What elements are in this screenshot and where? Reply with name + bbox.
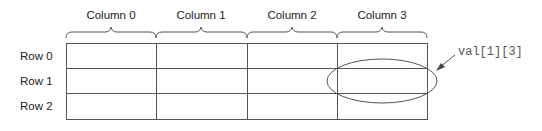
highlight-ellipse bbox=[327, 59, 437, 103]
column-header-3: Column 3 bbox=[357, 9, 406, 21]
element-label: val[1][3] bbox=[458, 45, 523, 59]
pointer-arrow bbox=[436, 55, 455, 71]
column-header-0: Column 0 bbox=[86, 9, 135, 21]
column-header-2: Column 2 bbox=[267, 9, 316, 21]
row-label-1: Row 1 bbox=[20, 75, 53, 87]
brace-column-0 bbox=[66, 27, 156, 38]
array-grid bbox=[66, 43, 428, 120]
brace-column-2 bbox=[247, 27, 337, 38]
brace-column-3 bbox=[337, 27, 427, 38]
array-diagram: Column 0 Column 1 Column 2 Column 3 Row … bbox=[0, 0, 542, 131]
brace-column-1 bbox=[156, 27, 247, 38]
row-label-0: Row 0 bbox=[20, 50, 53, 62]
column-braces bbox=[66, 27, 427, 38]
column-header-1: Column 1 bbox=[176, 9, 225, 21]
row-label-2: Row 2 bbox=[20, 100, 53, 112]
